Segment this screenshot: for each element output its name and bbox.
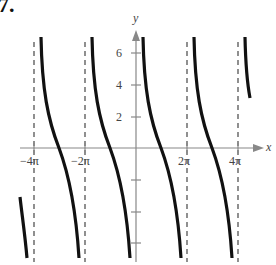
y-tick-4: 4 (116, 79, 122, 91)
x-tick-neg2pi: −2π (71, 155, 90, 167)
cotangent-graph (0, 0, 276, 265)
y-axis-arrow (132, 30, 140, 41)
x-axis-arrow (253, 144, 264, 152)
axes (20, 38, 258, 262)
x-tick-4pi: 4π (229, 155, 241, 167)
partial-left (20, 197, 27, 258)
y-tick-2: 2 (116, 111, 122, 123)
x-tick-neg4pi: −4π (20, 155, 39, 167)
x-tick-2pi: 2π (178, 155, 190, 167)
x-axis-label: x (266, 141, 271, 153)
y-axis-label: y (133, 12, 138, 24)
y-tick-6: 6 (116, 47, 122, 59)
partial-right (245, 37, 250, 98)
